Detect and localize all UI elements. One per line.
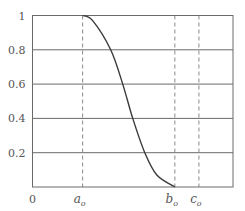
x-marker-label-a: ao [74,192,86,208]
x-tick-labels: aoboco0 [29,192,202,208]
line-chart: 0.20.40.60.81 aoboco0 [0,0,245,211]
x-marker-label-c: co [190,192,202,208]
data-series [83,16,175,188]
series-line-membership [83,16,175,188]
y-tick-labels: 0.20.40.60.81 [8,10,26,160]
chart: 0.20.40.60.81 aoboco0 [0,0,245,211]
origin-label: 0 [29,193,36,206]
plot-border [33,16,234,188]
x-marker-lines [83,16,199,188]
y-tick-label: 0.4 [8,112,26,125]
y-tick-label: 0.2 [8,147,26,160]
y-tick-label: 0.8 [8,44,26,57]
y-tick-label: 1 [19,10,26,23]
x-marker-label-b: bo [166,192,179,208]
plot-frame [33,16,234,188]
y-tick-label: 0.6 [8,78,26,91]
gridlines [33,16,234,153]
